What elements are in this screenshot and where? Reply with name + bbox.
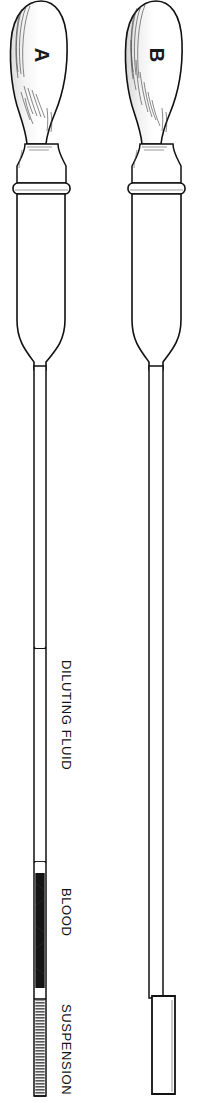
label-diluting-fluid: DILUTING FLUID <box>59 660 74 770</box>
pipette-a-upper-tube <box>17 194 65 370</box>
pipette-diagram: A <box>0 0 203 1103</box>
pipette-a-separator-gap <box>35 988 44 999</box>
pipette-a-diluting-fluid-column <box>35 649 44 862</box>
pipette-a-flange <box>13 183 70 194</box>
pipette-a-suspension-column <box>35 1000 44 1096</box>
pipette-b-lower-bulb <box>152 996 175 1094</box>
label-suspension: SUSPENSION <box>59 1004 74 1095</box>
pipette-a-air-gap <box>35 862 44 873</box>
pipette-b-letter: B <box>146 48 168 62</box>
pipette-b-upper-tube <box>132 194 181 370</box>
label-blood: BLOOD <box>59 888 74 937</box>
pipette-a-letter: A <box>31 48 53 62</box>
pipette-b-flange <box>128 183 185 194</box>
pipette-b-capillary-stem <box>149 366 163 998</box>
figure-container: A <box>0 0 203 1103</box>
pipette-a-meniscus-gap <box>35 636 44 648</box>
